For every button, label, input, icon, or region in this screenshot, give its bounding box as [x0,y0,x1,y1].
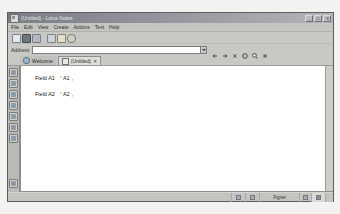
document-scrollbar[interactable] [325,66,333,191]
menu-item-create[interactable]: Create [53,24,68,30]
document-icon [62,58,69,65]
window-title: (Untitled) - Lotus Notes [21,15,305,21]
body-area: Field A1 ⌜ A1 ⌟ Field A2 ⌜ A2 ⌟ [8,66,333,192]
field-label-a1: Field A1 [35,74,55,82]
toolbar-separator [41,33,45,42]
status-resize-grip[interactable] [326,193,333,202]
notes-app-icon [10,14,19,23]
location-glyph [303,195,308,200]
field-input-a1[interactable]: ⌜ A1 ⌟ [60,74,73,82]
status-access-glyph [250,195,255,200]
tab-welcome-label: Welcome [32,58,53,64]
tab-untitled[interactable]: (Untitled) ✕ [58,56,101,65]
chevron-down-glyph [202,49,206,51]
address-input[interactable] [32,46,200,54]
copy-icon[interactable] [56,33,65,42]
bookmark-history-icon[interactable] [9,179,18,188]
welcome-globe-icon [23,57,30,64]
field-row: Field A2 ⌜ A2 ⌟ [35,90,333,98]
bookmark-todo-icon[interactable] [9,123,18,132]
field-row: Field A1 ⌜ A1 ⌟ [35,74,333,82]
save-icon[interactable] [21,33,30,42]
field-value-a1: A1 [62,74,71,82]
status-access-icon[interactable] [246,193,260,202]
screenshot-root: (Untitled) - Lotus Notes _ □ ✕ File Edit… [0,0,340,214]
bookmark-calendar-icon[interactable] [9,101,18,110]
paste-icon[interactable] [66,33,75,42]
stop-icon[interactable] [231,46,239,54]
print-icon[interactable] [31,33,40,42]
field-input-a2[interactable]: ⌜ A2 ⌟ [60,90,73,98]
spell-check-icon[interactable] [46,33,55,42]
window-controls: _ □ ✕ [305,15,331,22]
bookmark-mail-icon[interactable] [9,90,18,99]
lock-icon[interactable] [312,193,326,202]
menu-item-text[interactable]: Text [95,24,104,30]
field-close-marker: ⌟ [71,90,73,98]
forward-icon[interactable] [221,46,229,54]
menu-item-view[interactable]: View [38,24,49,30]
menu-item-help[interactable]: Help [109,24,119,30]
location-icon[interactable] [300,193,312,202]
maximize-button[interactable]: □ [314,15,322,22]
menu-item-file[interactable]: File [11,24,19,30]
close-button[interactable]: ✕ [323,15,331,22]
bookmark-favorites-icon[interactable] [9,68,18,77]
lock-glyph [316,195,321,200]
document-pane[interactable]: Field A1 ⌜ A1 ⌟ Field A2 ⌜ A2 ⌟ [20,66,333,192]
open-url-icon[interactable] [261,46,269,54]
status-network[interactable]: Fignet [260,193,300,202]
status-message [8,193,232,202]
address-label: Address [11,47,29,53]
address-bar: Address [8,44,333,55]
chevron-down-icon[interactable] [200,46,207,54]
tab-close-icon[interactable]: ✕ [93,59,97,64]
search-icon[interactable] [251,46,259,54]
status-indicator-icon[interactable] [232,193,246,202]
status-indicator-glyph [236,195,241,200]
back-icon[interactable] [211,46,219,54]
menu-item-edit[interactable]: Edit [24,24,33,30]
title-bar: (Untitled) - Lotus Notes _ □ ✕ [8,13,333,23]
tab-untitled-label: (Untitled) [71,58,91,64]
field-value-a2: A2 [62,90,71,98]
bookmark-databases-icon[interactable] [9,79,18,88]
menu-bar: File Edit View Create Actions Text Help [8,23,333,32]
minimize-button[interactable]: _ [305,15,313,22]
status-bar: Fignet [8,192,333,201]
field-close-marker: ⌟ [71,74,73,82]
tab-bar: Welcome (Untitled) ✕ [8,55,333,66]
toolbar [8,32,333,44]
menu-item-actions[interactable]: Actions [73,24,89,30]
refresh-icon[interactable] [241,46,249,54]
new-memo-icon[interactable] [11,33,20,42]
navigation-buttons [211,46,269,54]
bookmark-contacts-icon[interactable] [9,112,18,121]
tab-welcome[interactable]: Welcome [20,56,56,65]
bookmark-rail [8,66,20,192]
bookmark-replication-icon[interactable] [9,134,18,143]
lotus-notes-window: (Untitled) - Lotus Notes _ □ ✕ File Edit… [7,12,334,202]
field-label-a2: Field A2 [35,90,55,98]
